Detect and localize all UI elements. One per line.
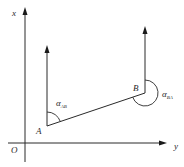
angle-subscript-ab: AB <box>60 104 67 109</box>
point-b-label: B <box>133 83 139 93</box>
x-axis-label: x <box>11 8 16 18</box>
point-a-label: A <box>35 126 42 136</box>
angle-subscript-ba: BA <box>167 95 174 100</box>
north-line-at-a <box>45 45 50 126</box>
y-axis-label: y <box>173 141 178 151</box>
azimuth-diagram: x y O A B αAB αBA <box>0 0 184 167</box>
north-arrowhead-b-icon <box>143 26 148 34</box>
y-axis-arrowhead-icon <box>159 141 167 146</box>
line-ab <box>47 93 145 126</box>
origin-label: O <box>11 145 18 155</box>
angle-label-ba: αBA <box>162 89 174 100</box>
angle-label-ab: αAB <box>56 98 67 109</box>
north-arrowhead-a-icon <box>45 45 50 53</box>
north-line-at-b <box>143 26 148 93</box>
y-axis <box>8 141 167 146</box>
x-axis-arrowhead-icon <box>23 7 28 15</box>
x-axis <box>23 7 28 162</box>
angle-arc-ab <box>47 112 60 122</box>
